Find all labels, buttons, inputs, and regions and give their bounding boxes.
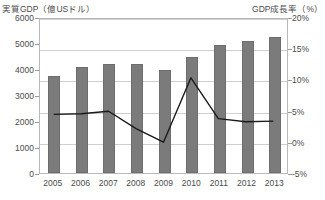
y-axis-left-tickmark [35, 122, 39, 123]
y-axis-left-tick-label: 6000 [0, 13, 34, 23]
y-axis-left-tick-label: 2000 [0, 117, 34, 127]
y-axis-right-tick-label: 10% [292, 75, 309, 85]
y-axis-right-tickmark [288, 112, 292, 113]
y-axis-right-tickmark [288, 80, 292, 81]
y-axis-right-tick-label: 5% [292, 107, 304, 117]
y-axis-right-tickmark [288, 18, 292, 19]
chart-container: 実質GDP（億USドル） GDP成長率（%） 01000200030004000… [0, 0, 325, 200]
right-axis-title: GDP成長率（%） [252, 2, 323, 14]
x-axis-tick-label: 2013 [258, 178, 290, 188]
growth-rate-line [54, 78, 274, 142]
y-axis-left-tick-label: 0 [0, 169, 34, 179]
y-axis-left-tick-label: 3000 [0, 91, 34, 101]
y-axis-right-tickmark [288, 174, 292, 175]
y-axis-left-tick-label: 4000 [0, 65, 34, 75]
y-axis-left-tickmark [35, 18, 39, 19]
y-axis-left-tickmark [35, 96, 39, 97]
y-axis-right-tick-label: 0% [292, 138, 304, 148]
y-axis-right-tick-label: 20% [292, 13, 309, 23]
y-axis-left-tick-label: 5000 [0, 39, 34, 49]
y-axis-right-tick-label: 15% [292, 44, 309, 54]
y-axis-left-tickmark [35, 44, 39, 45]
y-axis-right-tickmark [288, 143, 292, 144]
y-axis-left-tick-label: 1000 [0, 143, 34, 153]
line-series [40, 19, 287, 174]
y-axis-right-tick-label: -5% [292, 169, 307, 179]
y-axis-right-tickmark [288, 49, 292, 50]
plot-area [39, 18, 288, 174]
y-axis-left-tickmark [35, 174, 39, 175]
y-axis-left-tickmark [35, 148, 39, 149]
y-axis-left-tickmark [35, 70, 39, 71]
